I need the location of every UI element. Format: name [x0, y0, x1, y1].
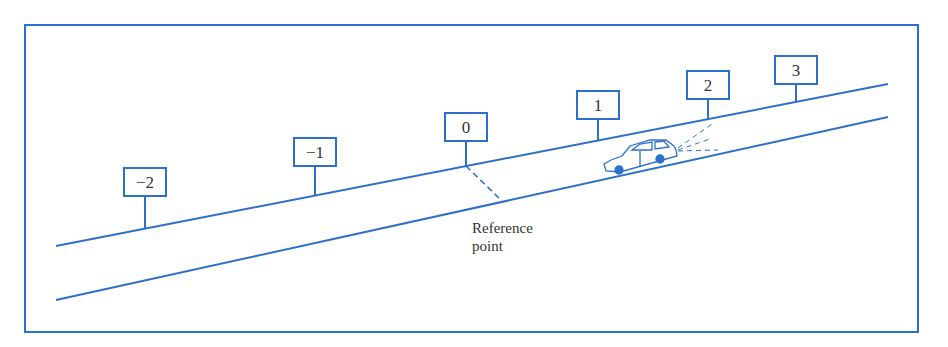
milepost-marker: 2	[687, 71, 729, 119]
milepost-marker: 3	[775, 56, 817, 101]
marker-label: −1	[306, 143, 324, 162]
road-lower-edge	[56, 117, 888, 300]
marker-label: 1	[594, 96, 603, 115]
milepost-marker: −1	[294, 138, 336, 196]
car-wheel-front	[656, 155, 664, 163]
diagram: −2−10123 Reference point	[0, 0, 948, 347]
car-wheel-rear	[615, 166, 623, 174]
milepost-marker: −2	[124, 168, 166, 229]
headlight-beam-2	[678, 139, 710, 150]
marker-label: 2	[704, 76, 713, 95]
marker-label: 0	[462, 118, 471, 137]
marker-label: −2	[136, 173, 154, 192]
reference-dashed-line	[466, 166, 502, 201]
reference-label-line1: Reference	[472, 220, 533, 236]
milepost-marker: 0	[445, 113, 487, 166]
headlight-beam-3	[678, 150, 718, 151]
reference-label-line2: point	[472, 238, 504, 254]
headlight-beam-1	[678, 124, 712, 148]
marker-label: 3	[792, 61, 801, 80]
milepost-marker: 1	[577, 91, 619, 140]
